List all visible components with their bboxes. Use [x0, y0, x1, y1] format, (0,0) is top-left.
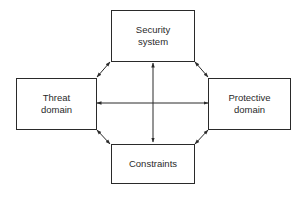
arrow-threat-constraints: [97, 130, 110, 144]
node-label-line: Security: [136, 24, 170, 36]
arrow-protective-constraints: [195, 130, 208, 144]
node-threat-domain: Threat domain: [16, 78, 97, 130]
arrow-security-protective: [195, 62, 208, 77]
node-label-line: Protective: [228, 92, 270, 104]
node-label-line: domain: [41, 104, 72, 116]
arrow-threat-security: [97, 62, 110, 77]
node-constraints: Constraints: [111, 144, 195, 184]
node-label-line: domain: [234, 104, 265, 116]
node-protective-domain: Protective domain: [208, 78, 291, 130]
node-security-system: Security system: [111, 10, 195, 62]
node-label-line: Constraints: [129, 158, 177, 170]
node-label-line: system: [138, 36, 168, 48]
node-label-line: Threat: [43, 92, 70, 104]
